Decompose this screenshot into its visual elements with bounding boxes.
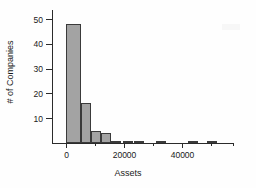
histogram-bar bbox=[134, 141, 144, 143]
histogram-bar bbox=[207, 141, 217, 143]
histogram-bar bbox=[101, 133, 111, 143]
histogram-bar bbox=[156, 141, 166, 143]
histogram-bar bbox=[81, 103, 91, 143]
histogram-chart: # of Companies 1020304050 02000040000 As… bbox=[0, 0, 256, 188]
bars-layer bbox=[0, 0, 256, 188]
histogram-bar bbox=[66, 24, 81, 143]
histogram-bar bbox=[123, 141, 133, 143]
histogram-bar bbox=[111, 141, 121, 143]
x-axis-title: Assets bbox=[0, 168, 256, 178]
histogram-bar bbox=[188, 141, 198, 143]
histogram-bar bbox=[91, 131, 101, 143]
